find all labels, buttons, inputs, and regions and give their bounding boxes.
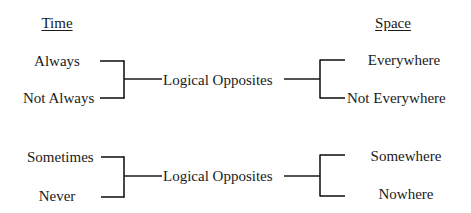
space-term-everywhere: Everywhere [368,52,440,68]
time-term-sometimes: Sometimes [27,149,94,165]
relation-label-2: Logical Opposites [163,168,273,184]
time-term-never: Never [39,188,76,204]
time-term-not-always: Not Always [23,90,94,106]
space-term-somewhere: Somewhere [371,148,442,164]
relation-label-1: Logical Opposites [163,72,273,88]
time-header: Time [41,15,72,31]
space-term-not-everywhere: Not Everywhere [347,90,446,106]
space-header: Space [375,15,411,31]
time-term-always: Always [34,53,80,69]
space-term-nowhere: Nowhere [379,186,434,202]
